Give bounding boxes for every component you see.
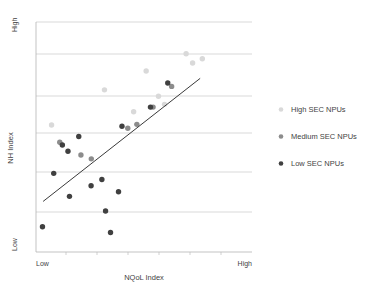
data-point (143, 68, 148, 73)
y-axis-low-label: Low (11, 237, 18, 251)
legend-label: Medium SEC NPUs (291, 132, 357, 141)
data-point (51, 171, 56, 176)
data-point (156, 94, 161, 99)
data-point (119, 123, 124, 128)
chart-legend: High SEC NPUsMedium SEC NPUsLow SEC NPUs (279, 105, 357, 168)
data-point (49, 122, 54, 127)
data-point (40, 224, 45, 229)
data-point (200, 56, 205, 61)
data-point (89, 156, 94, 161)
data-point (131, 109, 136, 114)
data-point (99, 177, 104, 182)
data-point (102, 87, 107, 92)
chart-canvas: High Low NH Index Low High NQoL Index Hi… (0, 0, 366, 285)
data-point (108, 230, 113, 235)
data-point (76, 134, 81, 139)
legend-marker-icon (279, 134, 284, 139)
data-point (148, 104, 153, 109)
data-point (165, 80, 170, 85)
data-point (88, 183, 93, 188)
legend-label: Low SEC NPUs (291, 159, 344, 168)
x-axis-title: NQoL Index (124, 273, 164, 282)
data-point (125, 126, 130, 131)
x-axis-ticks (66, 252, 221, 255)
gridlines (36, 22, 252, 212)
data-point (183, 51, 188, 56)
data-point (67, 194, 72, 199)
data-point (60, 142, 65, 147)
scatter-chart: High Low NH Index Low High NQoL Index Hi… (0, 0, 366, 285)
data-point (116, 189, 121, 194)
data-point (78, 152, 83, 157)
x-axis-high-label: High (238, 260, 253, 268)
trendline (43, 78, 200, 201)
y-axis-high-label: High (11, 17, 19, 32)
legend-marker-icon (279, 107, 284, 112)
legend-label: High SEC NPUs (291, 105, 346, 114)
data-point (190, 60, 195, 65)
data-point (65, 149, 70, 154)
y-axis-title: NH Index (6, 132, 15, 164)
series-high-sec-npus (49, 51, 205, 128)
data-point (103, 208, 108, 213)
x-axis-low-label: Low (36, 260, 50, 267)
data-points-layer (40, 51, 205, 235)
legend-marker-icon (279, 161, 284, 166)
